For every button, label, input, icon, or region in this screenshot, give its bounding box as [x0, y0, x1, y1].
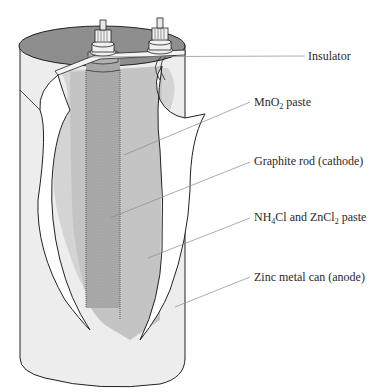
label-mno2-paste: MnO2 paste [254, 95, 311, 111]
label-zinc-can: Zinc metal can (anode) [254, 270, 365, 284]
graphite-rod [86, 50, 120, 320]
leader-zinc [175, 277, 250, 307]
label-electrolyte-paste: NH4Cl and ZnCl2 paste [254, 210, 366, 226]
dry-cell-diagram: Insulator MnO2 paste Graphite rod (catho… [0, 0, 390, 392]
label-graphite-rod: Graphite rod (cathode) [254, 154, 363, 168]
label-insulator: Insulator [308, 49, 351, 63]
